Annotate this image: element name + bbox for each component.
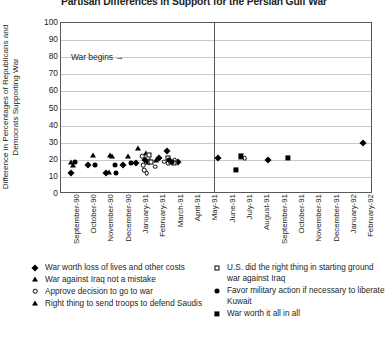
- data-point-circle-open: [140, 154, 145, 159]
- gridline: [61, 74, 371, 75]
- data-point-diamond-filled: [163, 148, 170, 155]
- data-point-circle-filled: [92, 162, 97, 167]
- war-begins-annotation: War begins→: [71, 52, 124, 62]
- x-tick-label: November-90: [106, 194, 115, 242]
- y-tick-label: 10: [32, 171, 58, 181]
- x-tick-label: November-91: [314, 194, 323, 242]
- data-point-diamond-filled: [84, 161, 91, 168]
- legend-marker-triangle-filled: [32, 277, 38, 282]
- legend-label: War worth loss of lives and other costs: [45, 263, 185, 272]
- x-axis-tick-labels: September-90October-90November-90Decembe…: [60, 194, 372, 256]
- legend-marker-circle-open: [33, 289, 38, 294]
- legend-item: War worth it all in all: [216, 308, 388, 319]
- legend-marker-triangle-filled: [32, 301, 38, 306]
- legend-label: War against Iraq not a mistake: [45, 275, 156, 284]
- x-tick-label: October-90: [89, 194, 98, 233]
- x-tick-label: June-91: [228, 194, 237, 223]
- y-axis-tick-labels: 0102030405060708090100: [28, 22, 58, 193]
- x-tick-label: May-91: [210, 194, 219, 220]
- plot-area: War begins→: [60, 22, 372, 193]
- legend-item: War worth loss of lives and other costs: [34, 262, 212, 273]
- y-axis-label: Difference in Percentages of Republicans…: [1, 19, 21, 195]
- legend-item: War against Iraq not a mistake: [34, 274, 212, 285]
- y-tick-label: 60: [32, 85, 58, 95]
- gridline: [61, 91, 371, 92]
- x-tick-label: February-92: [366, 194, 375, 237]
- y-tick-label: 70: [32, 68, 58, 78]
- data-point-square-filled: [239, 154, 244, 159]
- legend-column-left: War worth loss of lives and other costsW…: [34, 262, 212, 310]
- data-point-triangle-filled: [109, 154, 115, 159]
- legend-marker-square-filled: [214, 311, 219, 316]
- data-point-circle-open: [153, 164, 158, 169]
- data-point-triangle-filled: [90, 152, 96, 157]
- war-begins-text: War begins: [71, 52, 113, 62]
- data-point-triangle-filled: [125, 154, 131, 159]
- y-tick-label: 80: [32, 51, 58, 61]
- legend-item: U.S. did the right thing in starting gro…: [216, 262, 388, 285]
- war-begins-arrow-icon: →: [115, 53, 124, 62]
- x-tick-label: August-91: [262, 194, 271, 230]
- data-point-diamond-filled: [119, 161, 126, 168]
- data-point-circle-open: [145, 171, 150, 176]
- x-tick-label: April-91: [193, 194, 202, 221]
- legend-label: War worth it all in all: [227, 309, 300, 318]
- x-tick-label: July-91: [245, 194, 254, 219]
- data-point-triangle-filled: [135, 145, 141, 150]
- chart-container: Partisan Differences in Support for the …: [0, 0, 388, 339]
- chart-legend: War worth loss of lives and other costsW…: [0, 262, 388, 339]
- y-tick-label: 0: [32, 188, 58, 198]
- y-tick-label: 30: [32, 137, 58, 147]
- legend-label: U.S. did the right thing in starting gro…: [227, 263, 374, 283]
- data-point-circle-filled: [129, 161, 134, 166]
- legend-column-right: U.S. did the right thing in starting gro…: [216, 262, 388, 320]
- legend-label: Favor military action if necessary to li…: [227, 286, 384, 306]
- gridline: [61, 109, 371, 110]
- legend-marker-circle-filled: [215, 288, 220, 293]
- x-tick-label: January-92: [349, 194, 358, 233]
- gridline: [61, 177, 371, 178]
- data-point-square-filled: [233, 167, 238, 172]
- chart-title: Partisan Differences in Support for the …: [0, 0, 388, 7]
- legend-item: Favor military action if necessary to li…: [216, 285, 388, 308]
- x-tick-label: September-90: [72, 194, 81, 244]
- y-tick-label: 50: [32, 103, 58, 113]
- data-point-circle-filled: [169, 159, 174, 164]
- data-point-diamond-filled: [359, 139, 366, 146]
- gridline: [61, 126, 371, 127]
- x-tick-label: February-91: [158, 194, 167, 237]
- legend-item: Approve decision to go to war: [34, 286, 212, 297]
- data-point-triangle-filled: [106, 169, 112, 174]
- data-point-triangle-filled: [153, 157, 159, 162]
- x-tick-label: March-91: [176, 194, 185, 227]
- y-axis-label-wrapper: Difference in Percentages of Republicans…: [0, 18, 23, 196]
- data-point-square-open: [146, 152, 151, 157]
- x-tick-label: October-91: [297, 194, 306, 233]
- y-tick-label: 40: [32, 120, 58, 130]
- y-tick-label: 100: [32, 17, 58, 27]
- data-point-circle-filled: [112, 162, 117, 167]
- x-tick-label: January-91: [141, 194, 150, 233]
- legend-marker-diamond-filled: [31, 264, 38, 271]
- data-point-square-open: [149, 159, 154, 164]
- legend-item: Right thing to send troops to defend Sau…: [34, 298, 212, 309]
- x-tick-label: December-91: [332, 194, 341, 242]
- legend-marker-square-open: [215, 265, 220, 270]
- data-point-square-filled: [285, 155, 290, 160]
- data-point-circle-filled: [72, 159, 77, 164]
- y-tick-label: 90: [32, 34, 58, 44]
- war-begins-vertical-line: [214, 23, 215, 192]
- y-tick-label: 20: [32, 154, 58, 164]
- x-tick-label: December-90: [124, 194, 133, 242]
- x-tick-label: September-91: [280, 194, 289, 244]
- legend-label: Right thing to send troops to defend Sau…: [45, 299, 202, 308]
- gridline: [61, 143, 371, 144]
- legend-label: Approve decision to go to war: [45, 287, 153, 296]
- gridline: [61, 40, 371, 41]
- data-point-circle-filled: [114, 171, 119, 176]
- data-point-diamond-filled: [265, 156, 272, 163]
